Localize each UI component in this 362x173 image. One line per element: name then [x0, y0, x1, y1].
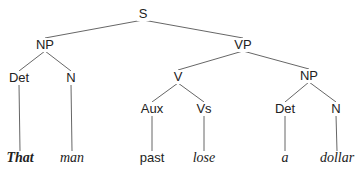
edge-v-vs [178, 83, 204, 102]
node-n-subject: N [64, 71, 77, 85]
node-vs: Vs [194, 102, 213, 116]
edge-n1-man [71, 84, 72, 151]
leaf-past: past [138, 151, 167, 165]
tree-edges [0, 0, 362, 173]
edge-n2-dollar [336, 115, 337, 151]
node-v: V [172, 70, 185, 84]
node-s: S [137, 7, 150, 21]
leaf-man: man [58, 151, 86, 165]
node-aux: Aux [139, 102, 165, 116]
edge-np1-n1 [45, 51, 71, 71]
edge-np2-n2 [309, 82, 336, 102]
node-det-object: Det [273, 102, 297, 116]
edge-s-np1 [45, 20, 143, 38]
node-np-subject: NP [34, 38, 56, 52]
node-det-subject: Det [7, 71, 31, 85]
node-np-object: NP [298, 69, 320, 83]
leaf-dollar: dollar [318, 151, 356, 165]
edge-np2-det2 [285, 82, 309, 102]
leaf-lose: lose [191, 151, 218, 165]
edge-det1-that [19, 84, 20, 151]
edge-np1-det1 [19, 51, 45, 71]
node-n-object: N [329, 102, 342, 116]
syntax-tree-diagram: S NP VP Det N V NP Aux Vs Det N That man… [0, 0, 362, 173]
edge-vp-v [178, 51, 243, 70]
edge-s-vp [143, 20, 243, 38]
node-vp: VP [232, 38, 253, 52]
edge-vp-np2 [243, 51, 309, 69]
leaf-that: That [4, 151, 35, 165]
edge-v-aux [152, 83, 178, 102]
leaf-a: a [280, 151, 291, 165]
